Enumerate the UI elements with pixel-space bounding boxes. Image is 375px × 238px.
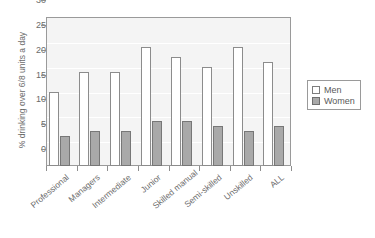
legend-swatch-women-icon [312,97,320,105]
legend-label-men: Men [324,85,342,95]
x-tick-mark [230,166,231,171]
bar-chart: % drinking over 6/8 units a day 05101520… [0,0,375,238]
x-tick-mark [46,166,47,171]
legend-swatch-men-icon [312,86,320,94]
legend-item-men: Men [312,84,355,95]
legend-label-women: Women [324,96,355,106]
legend: Men Women [307,80,361,110]
x-tick-mark [260,166,261,171]
x-tick-mark [199,166,200,171]
x-tick-mark [107,166,108,171]
x-tick-mark [291,166,292,171]
x-tick-mark [77,166,78,171]
legend-item-women: Women [312,95,355,106]
x-tick-mark [169,166,170,171]
x-tick-mark [138,166,139,171]
x-axis-labels: ProfessionalManagersIntermediateJuniorSk… [0,0,375,238]
